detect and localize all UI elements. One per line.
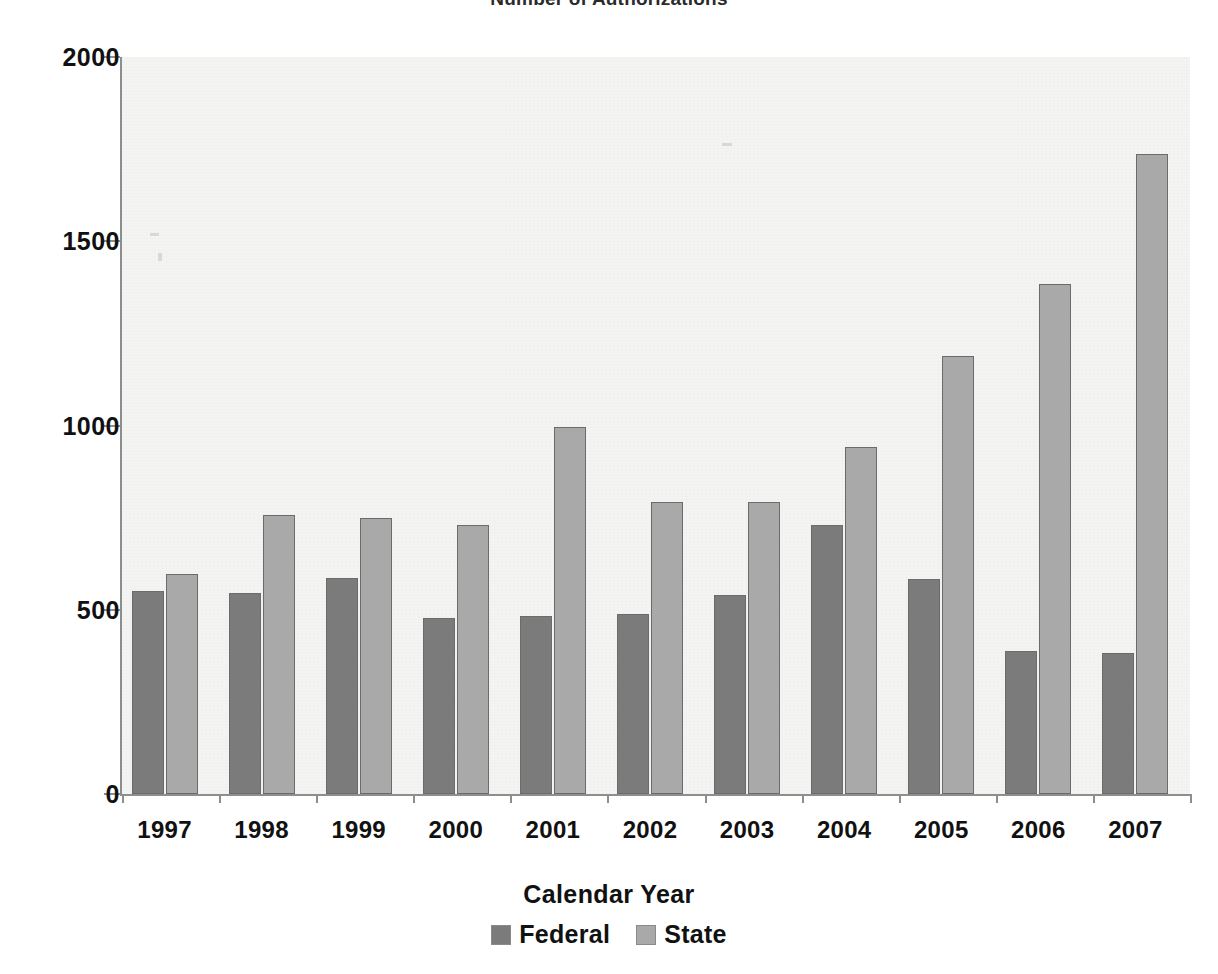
- y-axis-tick-label: 2000: [24, 43, 120, 72]
- x-axis-tick-mark: [219, 794, 221, 803]
- x-axis-tick-label-2001: 2001: [526, 816, 581, 844]
- bar-federal-2000: [423, 618, 455, 794]
- x-axis-tick-label-1997: 1997: [137, 816, 192, 844]
- x-axis-tick-mark: [1190, 794, 1192, 803]
- bar-federal-2003: [714, 595, 746, 794]
- legend-label: Federal: [519, 920, 610, 949]
- x-axis-tick-label-1999: 1999: [331, 816, 386, 844]
- bar-state-1998: [263, 515, 295, 794]
- bar-state-2006: [1039, 284, 1071, 794]
- x-axis-tick-mark: [122, 794, 124, 803]
- bar-state-2005: [942, 356, 974, 794]
- bar-federal-2006: [1005, 651, 1037, 794]
- bar-federal-1998: [229, 593, 261, 794]
- bar-chart-figure: Number of Authorizations 050010001500200…: [0, 0, 1218, 974]
- y-axis: 0500100015002000: [0, 0, 120, 974]
- chart-legend: FederalState: [0, 920, 1218, 949]
- legend-entry-state: State: [636, 920, 727, 949]
- x-axis-tick-label-2000: 2000: [429, 816, 484, 844]
- plot-area: [120, 57, 1190, 796]
- x-axis-tick-mark: [316, 794, 318, 803]
- x-axis-tick-label-2007: 2007: [1108, 816, 1163, 844]
- legend-swatch-icon: [491, 925, 511, 945]
- x-axis-tick-label-1998: 1998: [234, 816, 289, 844]
- chart-title: Number of Authorizations: [0, 0, 1218, 10]
- bar-state-2003: [748, 502, 780, 794]
- x-axis-tick-mark: [996, 794, 998, 803]
- bar-federal-2004: [811, 525, 843, 794]
- bar-state-2004: [845, 447, 877, 794]
- bar-federal-1997: [132, 591, 164, 794]
- x-axis-tick-label-2005: 2005: [914, 816, 969, 844]
- x-axis-tick-mark: [1093, 794, 1095, 803]
- y-axis-tick-label: 0: [24, 780, 120, 809]
- bar-federal-2005: [908, 579, 940, 794]
- bar-state-2002: [651, 502, 683, 794]
- x-axis-tick-mark: [899, 794, 901, 803]
- legend-entry-federal: Federal: [491, 920, 610, 949]
- bar-state-1999: [360, 518, 392, 794]
- legend-label: State: [664, 920, 727, 949]
- x-axis-tick-mark: [607, 794, 609, 803]
- x-axis-tick-label-2003: 2003: [720, 816, 775, 844]
- bar-federal-2001: [520, 616, 552, 794]
- y-axis-tick-label: 500: [24, 595, 120, 624]
- x-axis-tick-label-2004: 2004: [817, 816, 872, 844]
- y-axis-tick-label: 1500: [24, 227, 120, 256]
- x-axis-tick-mark: [802, 794, 804, 803]
- y-axis-tick-label: 1000: [24, 411, 120, 440]
- bar-state-1997: [166, 574, 198, 794]
- legend-swatch-icon: [636, 925, 656, 945]
- x-axis-tick-label-2002: 2002: [623, 816, 678, 844]
- bar-state-2000: [457, 525, 489, 794]
- bar-federal-2002: [617, 614, 649, 794]
- bar-state-2001: [554, 427, 586, 794]
- x-axis-tick-mark: [413, 794, 415, 803]
- bar-federal-1999: [326, 578, 358, 794]
- x-axis-title: Calendar Year: [0, 880, 1218, 909]
- x-axis-tick-mark: [705, 794, 707, 803]
- x-axis-tick-mark: [510, 794, 512, 803]
- x-axis-tick-label-2006: 2006: [1011, 816, 1066, 844]
- bar-federal-2007: [1102, 653, 1134, 794]
- bar-state-2007: [1136, 154, 1168, 794]
